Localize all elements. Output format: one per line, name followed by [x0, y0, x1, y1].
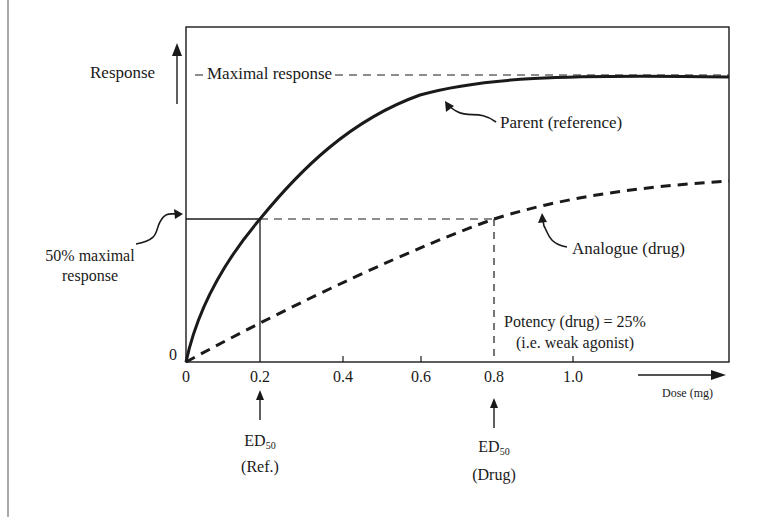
- ed50-ref-label: ED50: [230, 432, 290, 450]
- potency-label: Potency (drug) = 25%: [490, 313, 660, 331]
- dose-arrow-icon: [711, 370, 726, 380]
- parent-pointer-icon: [448, 104, 496, 122]
- x-axis-label: Dose (mg): [662, 384, 713, 402]
- ed50-ref-arrow-icon: [256, 390, 264, 400]
- half-response-pointer-icon: [136, 214, 176, 244]
- parent-curve-label: Parent (reference): [500, 114, 622, 132]
- y-axis-label: Response: [90, 64, 155, 82]
- x-tick-label-2: 0.4: [326, 368, 360, 386]
- x-tick-label-0: 0: [171, 368, 201, 386]
- half-response-label-line2: response: [40, 267, 140, 285]
- ed50-ref-note: (Ref.): [230, 458, 290, 476]
- x-tick-marks: [343, 356, 573, 362]
- x-tick-label-3: 0.6: [404, 368, 438, 386]
- half-response-pointer-head-icon: [174, 209, 183, 219]
- parent-pointer-head-icon: [445, 101, 454, 112]
- ed50-drug-arrow-icon: [490, 398, 498, 408]
- analogue-pointer-icon: [543, 218, 567, 247]
- maximal-response-label: Maximal response: [205, 65, 334, 83]
- ed50-drug-note: (Drug): [459, 466, 529, 484]
- x-tick-label-4: 0.8: [477, 368, 511, 386]
- potency-note: (i.e. weak agonist): [490, 334, 660, 352]
- x-tick-label-1: 0.2: [243, 368, 277, 386]
- x-tick-label-5: 1.0: [556, 368, 590, 386]
- ed50-drug-label: ED50: [464, 438, 524, 456]
- analogue-curve-label: Analogue (drug): [572, 240, 685, 258]
- response-arrow-icon: [172, 43, 182, 56]
- analogue-pointer-head-icon: [538, 213, 547, 223]
- y-zero-label: 0: [169, 346, 177, 364]
- half-response-label-line1: 50% maximal: [40, 247, 140, 265]
